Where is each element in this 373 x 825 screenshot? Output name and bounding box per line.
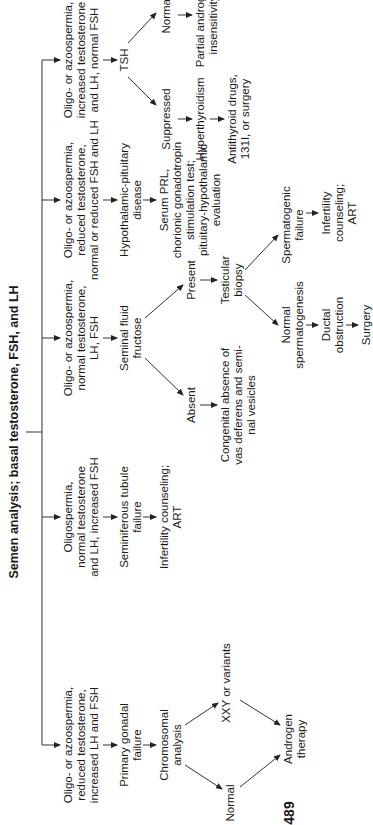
- text-line: failure: [293, 186, 306, 263]
- text-line: increased testosterone: [75, 2, 88, 118]
- text-line: 131I, or surgery: [239, 74, 252, 164]
- text-line: obstruction: [333, 297, 346, 353]
- page-number: 489: [283, 801, 296, 824]
- text-line: vas deferens and semi-: [232, 345, 245, 465]
- text-line: Androgen: [282, 714, 295, 764]
- node-seminiferous-tubule-failure: Seminiferous tubule failure: [118, 466, 144, 568]
- finding-seminiferous: Oligospermia, normal testosterone and LH…: [62, 457, 101, 577]
- text-line: Oligospermia,: [62, 457, 75, 577]
- text-line: Oligo- or azoospermia,: [62, 2, 75, 118]
- node-infertility-counseling-art: Infertility counseling; ART: [320, 184, 359, 242]
- text-line: Spermatogenic: [280, 186, 293, 263]
- text-line: evaluation: [210, 142, 223, 258]
- text-line: insensitivity: [207, 0, 220, 67]
- text-line: LH, FSH: [88, 280, 101, 396]
- text-line: Primary gonadal: [118, 703, 131, 787]
- node-surgery: Surgery: [360, 305, 373, 345]
- node-karyotype-normal: Normal: [224, 784, 237, 821]
- text-line: nal vesicles: [245, 345, 258, 465]
- text-line: Oligo- or azoospermia,: [62, 687, 75, 803]
- text-line: Antithyroid drugs,: [226, 74, 239, 164]
- node-primary-gonadal-failure: Primary gonadal failure: [118, 703, 144, 787]
- text-line: Chromosomal: [158, 709, 171, 781]
- text-line: Normal: [280, 281, 293, 369]
- text-line: reduced testosterone,: [75, 687, 88, 803]
- node-partial-androgen-insensitivity: Partial androgen insensitivity: [194, 0, 220, 67]
- node-serum-prl-evaluation: Serum PRL, chorionic gonadotropin stimul…: [158, 142, 223, 258]
- finding-increased-testosterone: Oligo- or azoospermia, increased testost…: [62, 2, 101, 118]
- text-line: and LH, normal FSH: [88, 2, 101, 118]
- node-ductal-obstruction: Ductal obstruction: [320, 297, 346, 353]
- node-tsh-suppressed: Suppressed: [160, 88, 173, 149]
- text-line: Congenital absence of: [219, 345, 232, 465]
- node-chromosomal-analysis: Chromosomal analysis: [158, 709, 184, 781]
- node-seminal-fluid-fructose: Seminal fluid fructose: [118, 305, 144, 371]
- text-line: Hypothalamic-pituitary: [118, 143, 131, 257]
- text-line: reduced testosterone,: [75, 120, 88, 280]
- node-infertility-counseling: Infertility counseling; ART: [158, 465, 184, 569]
- text-line: Seminal fluid: [118, 305, 131, 371]
- text-line: analysis: [171, 709, 184, 781]
- node-hypothalamic-pituitary-disease: Hypothalamic-pituitary disease: [118, 143, 144, 257]
- node-antithyroid-treatment: Antithyroid drugs, 131I, or surgery: [226, 74, 252, 164]
- text-line: spermatogenesis: [293, 281, 306, 369]
- node-xxy-variants: XXY or variants: [220, 643, 233, 723]
- text-line: counseling;: [333, 184, 346, 242]
- node-hyperthyroidism: Hyperthyroidism: [194, 77, 207, 160]
- text-line: Ductal: [320, 297, 333, 353]
- diagram-title: Semen analysis; basal testosterone, FSH,…: [8, 285, 21, 578]
- text-line: normal or reduced FSH and LH: [88, 120, 101, 280]
- node-androgen-therapy: Androgen therapy: [282, 714, 308, 764]
- text-line: chorionic gonadotropin: [171, 142, 184, 258]
- text-line: normal testosterone,: [75, 280, 88, 396]
- text-line: Oligo- or azoospermia,: [62, 120, 75, 280]
- text-line: fructose: [131, 305, 144, 371]
- node-fructose-present: Present: [185, 260, 198, 300]
- node-congenital-absence-vas: Congenital absence of vas deferens and s…: [219, 345, 258, 465]
- text-line: and LH, increased FSH: [88, 457, 101, 577]
- node-fructose-absent: Absent: [185, 387, 198, 423]
- node-tsh: TSH: [118, 49, 131, 72]
- node-tsh-normal: Normal: [160, 0, 173, 34]
- text-line: Oligo- or azoospermia,: [62, 280, 75, 396]
- finding-hypothalamic: Oligo- or azoospermia, reduced testoster…: [62, 120, 101, 280]
- text-line: ART: [346, 184, 359, 242]
- node-testicular-biopsy: Testicular biopsy: [219, 256, 245, 305]
- text-line: therapy: [295, 714, 308, 764]
- text-line: normal testosterone: [75, 457, 88, 577]
- node-normal-spermatogenesis: Normal spermatogenesis: [280, 281, 306, 369]
- text-line: Testicular: [219, 256, 232, 305]
- text-line: ART: [171, 465, 184, 569]
- text-line: Infertility counseling;: [158, 465, 171, 569]
- text-line: failure: [131, 466, 144, 568]
- text-line: increased LH and FSH: [88, 687, 101, 803]
- text-line: Serum PRL,: [158, 142, 171, 258]
- finding-primary-gonadal: Oligo- or azoospermia, reduced testoster…: [62, 687, 101, 803]
- text-line: Infertility: [320, 184, 333, 242]
- text-line: Partial androgen: [194, 0, 207, 67]
- text-line: failure: [131, 703, 144, 787]
- text-line: disease: [131, 143, 144, 257]
- node-spermatogenic-failure: Spermatogenic failure: [280, 186, 306, 263]
- text-line: biopsy: [232, 256, 245, 305]
- finding-normal-hormones: Oligo- or azoospermia, normal testostero…: [62, 280, 101, 396]
- text-line: Seminiferous tubule: [118, 466, 131, 568]
